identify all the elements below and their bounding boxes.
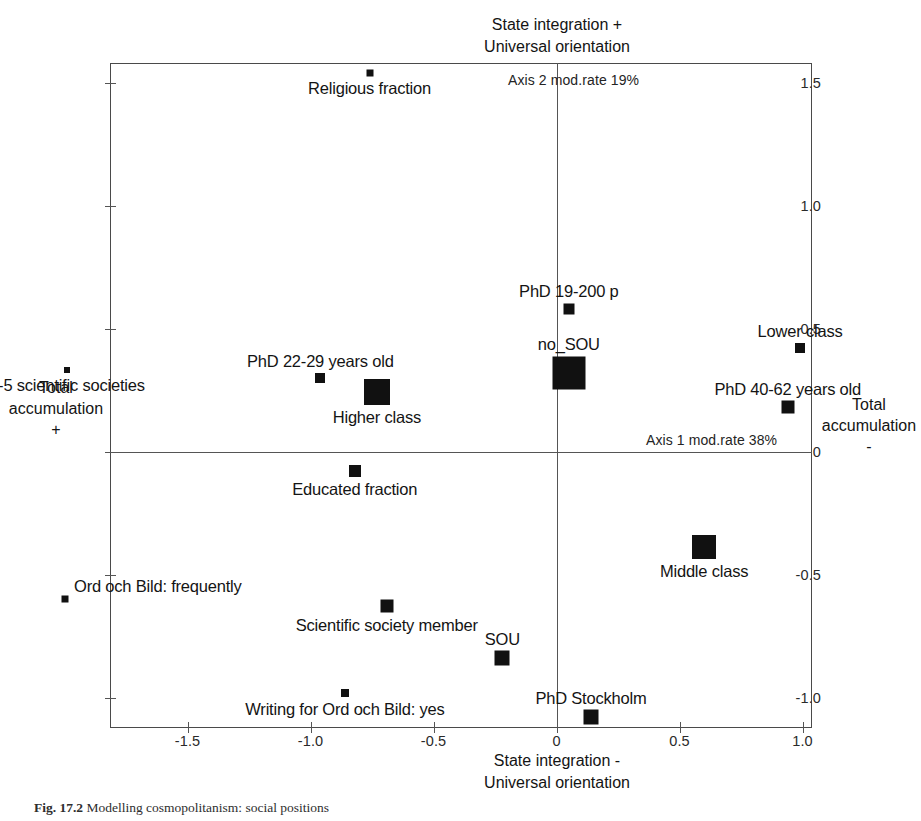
y-axis-tick [105, 698, 116, 699]
x-axis-tick-label: 0.5 [669, 733, 689, 749]
axis2-mod-rate-label: Axis 2 mod.rate 19% [508, 72, 639, 88]
y-axis-tick-label: -1.0 [796, 690, 821, 706]
data-point-label: Higher class [333, 408, 421, 427]
data-point-marker[interactable] [781, 401, 794, 414]
y-axis-tick-label: 1.0 [801, 198, 821, 214]
x-axis-tick-label: -1.0 [298, 733, 323, 749]
y-axis-tick [105, 452, 116, 453]
data-point-label: Writing for Ord och Bild: yes [245, 700, 444, 719]
axis-left-caption-line2: accumulation [4, 399, 108, 420]
y-axis-tick [105, 329, 116, 330]
figure-caption: Fig. 17.2 Modelling cosmopolitanism: soc… [34, 800, 329, 816]
data-point-marker[interactable] [795, 343, 805, 353]
data-point-marker[interactable] [563, 303, 574, 314]
axis-left-caption-line3: + [4, 420, 108, 441]
data-point-label: no_SOU [538, 335, 600, 354]
x-axis-tick-label: 0 [552, 733, 560, 749]
x-axis-tick [311, 722, 312, 733]
x-axis-tick [434, 722, 435, 733]
x-axis-tick-label: -1.5 [175, 733, 200, 749]
axis-top-caption-line2: Universal orientation [484, 36, 630, 58]
data-point-marker[interactable] [495, 651, 510, 666]
figure-caption-label: Fig. 17.2 [34, 800, 83, 815]
data-point-marker[interactable] [583, 710, 598, 725]
data-point-label: 2-5 scientific societies [0, 376, 145, 395]
x-axis-tick [803, 722, 804, 733]
data-point-label: Educated fraction [292, 480, 417, 499]
data-point-marker[interactable] [315, 373, 325, 383]
data-point-marker[interactable] [61, 596, 68, 603]
x-axis-tick [188, 722, 189, 733]
y-axis-tick [105, 206, 116, 207]
horizontal-axis-line [110, 452, 812, 453]
axis-right-caption-line2: accumulation [818, 416, 920, 437]
data-point-label: PhD 40-62 years old [714, 380, 861, 399]
axis-right-caption-line3: - [818, 437, 920, 458]
data-point-label: Lower class [758, 322, 843, 341]
data-point-marker[interactable] [366, 69, 373, 76]
x-axis-tick [680, 722, 681, 733]
data-point-label: Scientific society member [296, 616, 478, 635]
data-point-label: Ord och Bild: frequently [74, 577, 242, 596]
x-axis-tick-label: -0.5 [421, 733, 446, 749]
data-point-label: SOU [485, 630, 520, 649]
y-axis-tick [105, 575, 116, 576]
data-point-marker[interactable] [341, 689, 349, 697]
data-point-marker[interactable] [64, 367, 70, 373]
data-point-marker[interactable] [552, 356, 585, 389]
x-axis-tick-label: 1.0 [792, 733, 812, 749]
figure-caption-text: Modelling cosmopolitanism: social positi… [87, 800, 330, 815]
data-point-marker[interactable] [692, 535, 716, 559]
axis-bottom-caption-line2: Universal orientation [484, 772, 630, 794]
axis-bottom-caption: State integration - Universal orientatio… [484, 750, 630, 793]
y-axis-tick-label: 1.5 [801, 75, 821, 91]
axis-top-caption: State integration + Universal orientatio… [484, 14, 630, 57]
data-point-label: PhD 22-29 years old [247, 352, 394, 371]
axis1-mod-rate-label: Axis 1 mod.rate 38% [646, 432, 777, 448]
data-point-label: PhD Stockholm [535, 689, 646, 708]
data-point-marker[interactable] [380, 600, 393, 613]
data-point-label: Middle class [660, 562, 748, 581]
axis-top-caption-line1: State integration + [484, 14, 630, 36]
data-point-marker[interactable] [364, 379, 390, 405]
y-axis-tick [105, 83, 116, 84]
data-point-label: Religious fraction [308, 79, 431, 98]
correspondence-analysis-figure: State integration + Universal orientatio… [0, 0, 921, 821]
y-axis-tick-label: -0.5 [796, 567, 821, 583]
vertical-axis-line [557, 63, 558, 728]
x-axis-tick [557, 722, 558, 733]
y-axis-tick-label: 0 [813, 444, 821, 460]
axis-bottom-caption-line1: State integration - [484, 750, 630, 772]
data-point-label: PhD 19-200 p [519, 282, 618, 301]
axis-right-caption: Total accumulation - [818, 395, 920, 457]
data-point-marker[interactable] [349, 465, 361, 477]
